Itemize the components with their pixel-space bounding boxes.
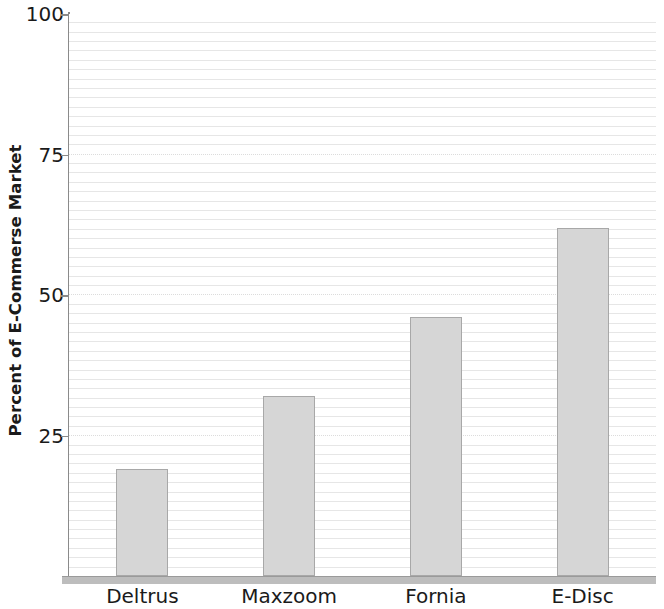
gridline [69, 126, 656, 127]
x-axis-tick-labels: DeltrusMaxzoomForniaE-Disc [69, 585, 656, 609]
gridline [69, 41, 656, 42]
x-axis-baseline [62, 576, 656, 584]
y-axis-tick-label: 50 [18, 285, 64, 305]
gridline [69, 79, 656, 80]
x-axis-tick-label: Fornia [363, 585, 510, 607]
gridline [69, 219, 656, 220]
gridline [69, 107, 656, 108]
y-axis-tick-mark [61, 155, 69, 157]
bar [263, 396, 315, 576]
gridline [69, 191, 656, 192]
gridline [69, 116, 656, 117]
gridline [69, 182, 656, 183]
gridline [69, 88, 656, 89]
y-axis-tick-mark [61, 436, 69, 438]
gridline [69, 97, 656, 98]
gridline [69, 60, 656, 61]
x-axis-tick-label: E-Disc [509, 585, 656, 607]
gridline [69, 135, 656, 136]
bar [116, 469, 168, 576]
x-axis-tick-label: Maxzoom [216, 585, 363, 607]
gridline [69, 22, 656, 23]
y-axis-tick-label: 75 [18, 145, 64, 165]
gridline [69, 154, 656, 155]
gridline [69, 210, 656, 211]
gridline [69, 32, 656, 33]
gridline [69, 201, 656, 202]
gridline [69, 50, 656, 51]
bar [410, 317, 462, 576]
bar-chart: Percent of E-Commerse Market 100755025 D… [0, 0, 664, 609]
gridline [69, 144, 656, 145]
y-axis-tick-mark [61, 295, 69, 297]
y-axis-tick-label: 25 [18, 426, 64, 446]
y-axis-tick-labels: 100755025 [12, 0, 64, 609]
gridline [69, 172, 656, 173]
x-axis-tick-label: Deltrus [69, 585, 216, 607]
bar [557, 228, 609, 576]
gridline [69, 69, 656, 70]
y-axis-tick-label: 100 [18, 4, 64, 24]
plot-area [69, 14, 656, 576]
gridline [69, 163, 656, 164]
y-axis-tick-mark [61, 14, 69, 16]
